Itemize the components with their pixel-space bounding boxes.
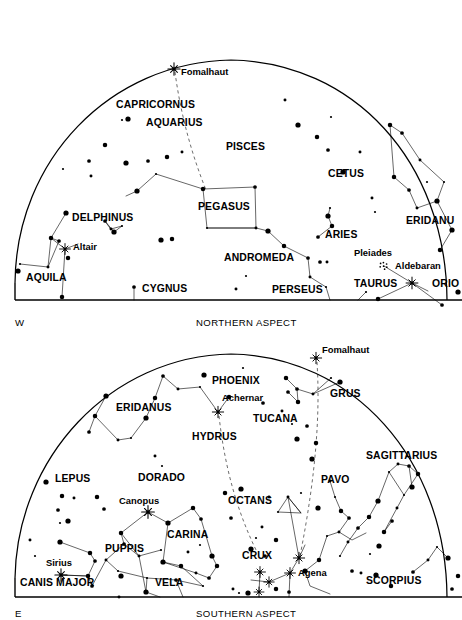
star-dot — [407, 464, 411, 468]
constellation-label-phoenix: PHOENIX — [212, 375, 260, 386]
star-dot — [360, 572, 363, 575]
star-dot — [117, 570, 119, 572]
northern-aspect-chart: CAPRICORNUSAQUARIUSPISCESCETUSPEGASUSDEL… — [0, 0, 462, 336]
star-dot — [232, 588, 235, 591]
star-dot — [60, 295, 64, 299]
constellation-label-aries: ARIES — [325, 229, 358, 240]
southern-star-labels: FomalhautAchernarCanopusSiriusAgena — [46, 344, 369, 578]
star-dot — [376, 543, 381, 548]
star-dot — [49, 236, 53, 240]
pleiades-star-dot — [384, 268, 386, 270]
star-dot — [245, 590, 250, 595]
star-dot — [60, 494, 64, 498]
star-dot — [138, 555, 141, 558]
star-dot — [119, 531, 123, 535]
star-dot — [347, 541, 350, 544]
constellation-label-puppis: PUPPIS — [105, 543, 144, 554]
star-dot — [306, 256, 310, 260]
constellation-label-vela: VELA — [155, 577, 184, 588]
star-dot — [161, 465, 163, 467]
star-dot — [73, 497, 76, 500]
star-dot — [158, 237, 163, 242]
star-dot — [255, 537, 257, 539]
star-dot — [57, 539, 62, 544]
constellation-label-andromeda: ANDROMEDA — [224, 252, 294, 263]
star-dot — [400, 131, 404, 135]
star-dot — [312, 393, 315, 396]
star-dot — [287, 590, 291, 594]
star-dot — [95, 495, 99, 499]
southern-aspect-caption: SOUTHERN ASPECT — [196, 608, 296, 619]
star-dot — [90, 175, 93, 178]
star-dot — [207, 576, 211, 580]
star-dot — [339, 509, 343, 513]
star-dot — [59, 522, 61, 524]
constellation-label-eridanu: ERIDANU — [406, 215, 454, 226]
star-dot — [371, 197, 374, 200]
constellation-label-scorpius: SCORPIUS — [366, 575, 421, 586]
star-dot — [329, 207, 331, 209]
star-dot — [202, 585, 204, 587]
star-dot — [284, 376, 288, 380]
star-dot — [153, 396, 157, 400]
star-dot — [411, 570, 415, 574]
bright-star-marker — [168, 63, 180, 75]
star-dot — [170, 237, 174, 241]
star-dot — [375, 498, 380, 503]
star-dot — [330, 377, 332, 379]
northern-sky-map: CAPRICORNUSAQUARIUSPISCESCETUSPEGASUSDEL… — [0, 0, 462, 336]
star-dot — [191, 506, 195, 510]
star-dot — [121, 119, 123, 121]
star-dot — [130, 437, 132, 439]
star-dot — [309, 456, 314, 461]
star-dot — [93, 414, 97, 418]
star-dot — [337, 379, 342, 384]
star-dot — [445, 555, 450, 560]
star-dot — [339, 555, 341, 557]
star-dot — [29, 539, 32, 542]
constellation-label-carina: CARINA — [167, 529, 209, 540]
star-dot — [165, 520, 170, 525]
star-dot — [62, 168, 64, 170]
star-dot — [338, 531, 341, 534]
star-dot — [388, 471, 390, 473]
star-dot — [235, 288, 238, 291]
star-dot — [365, 291, 367, 293]
puppis-lines — [106, 533, 161, 592]
star-dot — [314, 441, 318, 445]
star-dot — [416, 207, 419, 210]
star-dot — [255, 227, 258, 230]
star-dot — [356, 526, 360, 530]
star-dot — [132, 285, 136, 289]
star-dot — [215, 564, 219, 568]
northern-aspect-caption: NORTHERN ASPECT — [196, 317, 297, 328]
star-dot — [325, 213, 330, 218]
constellation-label-cygnus: CYGNUS — [142, 283, 187, 294]
star-dot — [102, 507, 106, 511]
star-label-sirius: Sirius — [46, 557, 72, 568]
star-dot — [125, 116, 130, 121]
northern-ecliptic-line — [175, 72, 206, 190]
star-dot — [201, 187, 205, 191]
star-dot — [277, 511, 279, 513]
star-dot — [305, 424, 309, 428]
star-dot — [261, 526, 264, 529]
star-dot — [436, 546, 438, 548]
southern-constellation-labels: PHOENIXGRUSERIDANUSTUCANAHYDRUSSAGITTARI… — [20, 375, 437, 588]
constellation-label-pegasus: PEGASUS — [198, 201, 250, 212]
star-dot — [87, 430, 91, 434]
star-dot — [19, 263, 21, 265]
star-dot — [416, 472, 420, 476]
star-dot — [181, 151, 184, 154]
star-dot — [350, 569, 354, 573]
star-dot — [334, 496, 336, 498]
star-dot — [434, 198, 439, 203]
star-dot — [315, 505, 320, 510]
star-dot — [274, 538, 278, 542]
star-label-achernar: Achernar — [222, 392, 264, 403]
star-dot — [318, 260, 322, 264]
constellation-label-cetus: CETUS — [328, 168, 364, 179]
bright-star-marker — [254, 587, 264, 597]
star-dot — [396, 507, 399, 510]
star-dot — [110, 228, 113, 231]
